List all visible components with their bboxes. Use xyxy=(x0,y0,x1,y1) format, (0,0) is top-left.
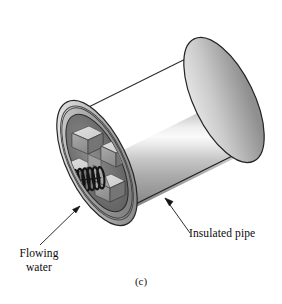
label-flowing-water-line1: Flowing xyxy=(6,246,72,260)
insulated-pipe-leader xyxy=(165,198,190,233)
figure-container: Flowing water Insulated pipe (c) xyxy=(0,0,282,304)
flowing-water-leader xyxy=(40,206,80,245)
figure-caption: (c) xyxy=(0,275,282,287)
label-flowing-water: Flowing water xyxy=(6,246,72,274)
label-insulated-pipe: Insulated pipe xyxy=(189,227,255,239)
label-flowing-water-line2: water xyxy=(6,260,72,274)
internal-cross-fins xyxy=(63,126,131,202)
